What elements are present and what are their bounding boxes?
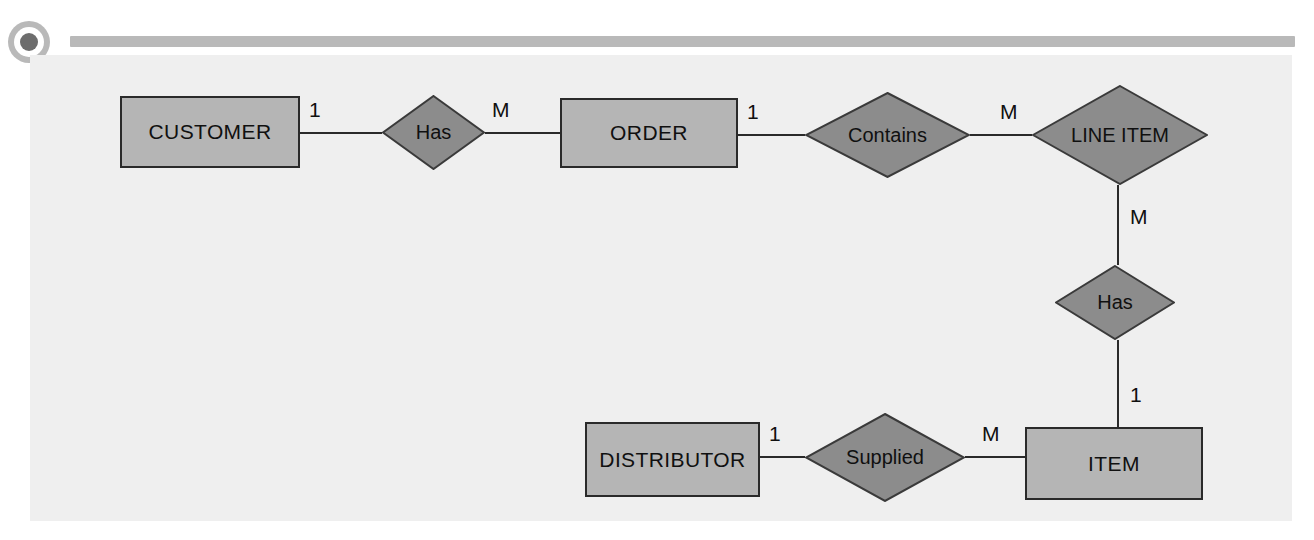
er-diagram-page: CUSTOMERORDERLINE ITEMDISTRIBUTORITEMHas…: [0, 0, 1314, 540]
cardinality-card-contains-lineitem: M: [1000, 100, 1018, 124]
cardinality-card-lineitem-has: M: [1130, 205, 1148, 229]
entity-label: DISTRIBUTOR: [599, 448, 745, 472]
cardinality-card-customer-has: 1: [309, 98, 321, 122]
relationship-supplied[interactable]: Supplied: [805, 413, 965, 502]
header-bullet-dot-icon: [20, 33, 38, 51]
relationship-contains[interactable]: Contains: [805, 92, 970, 178]
entity-customer[interactable]: CUSTOMER: [120, 96, 300, 168]
entity-label: CUSTOMER: [149, 120, 272, 144]
header-rule: [70, 36, 1295, 47]
entity-order[interactable]: ORDER: [560, 98, 738, 168]
relationship-label: Contains: [848, 124, 927, 147]
entity-label: ORDER: [610, 121, 688, 145]
cardinality-card-supp-item: M: [982, 422, 1000, 446]
relationship-label: Supplied: [846, 446, 924, 469]
relationship-label: Has: [416, 121, 452, 144]
entity-item[interactable]: ITEM: [1025, 427, 1203, 500]
entity-line_item[interactable]: LINE ITEM: [1032, 85, 1208, 185]
relationship-has_order[interactable]: Has: [382, 95, 485, 170]
cardinality-card-has-item: 1: [1130, 383, 1142, 407]
cardinality-card-distributor-supp: 1: [769, 422, 781, 446]
entity-distributor[interactable]: DISTRIBUTOR: [585, 422, 760, 497]
entity-label: ITEM: [1088, 452, 1140, 476]
relationship-label: Has: [1097, 291, 1133, 314]
cardinality-card-has-order: M: [492, 98, 510, 122]
entity-label: LINE ITEM: [1071, 124, 1169, 147]
relationship-has_item[interactable]: Has: [1055, 265, 1175, 340]
cardinality-card-order-contains: 1: [747, 100, 759, 124]
